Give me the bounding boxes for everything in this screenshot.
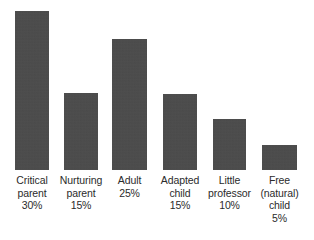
bar-critical-parent [15,11,49,170]
bar-adapted-child [163,94,197,170]
axis-label-free-natural-child: Free(natural)child5% [240,174,314,224]
bar-little-professor [213,119,246,170]
axis-label-line: Free [240,174,314,187]
bar-chart: Criticalparent30% Nurturingparent15% Adu… [0,0,313,240]
axis-label-line: child [240,199,314,212]
bar-nurturing-parent [64,93,98,170]
axis-label-line: 15% [41,199,121,212]
plot-area [0,0,313,170]
bar-adult [112,39,147,170]
axis-label-line: (natural) [240,187,314,200]
axis-label-line: 5% [240,212,314,225]
category-labels: Criticalparent30% Nurturingparent15% Adu… [0,170,313,240]
bar-free-natural-child [262,145,297,170]
